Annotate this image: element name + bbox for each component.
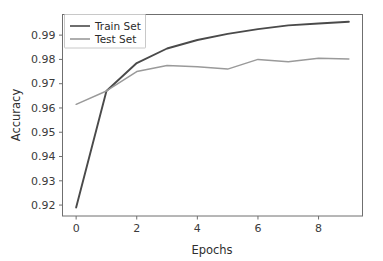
legend-label-train-set: Train Set — [94, 20, 141, 32]
y-tick-label-3: 0.95 — [31, 126, 56, 139]
figure-background — [0, 0, 383, 261]
y-tick-label-1: 0.93 — [31, 175, 56, 188]
y-tick-label-0: 0.92 — [31, 199, 56, 212]
x-tick-label-4: 8 — [315, 222, 322, 235]
chart-figure: 0.920.930.940.950.960.970.980.99 02468 E… — [0, 0, 383, 261]
x-tick-label-1: 2 — [133, 222, 140, 235]
y-axis-title: Accuracy — [9, 89, 23, 142]
y-tick-label-7: 0.99 — [31, 29, 56, 42]
y-tick-label-2: 0.94 — [31, 150, 56, 163]
chart-legend: Train Set Test Set — [65, 15, 146, 49]
y-tick-label-4: 0.96 — [31, 102, 56, 115]
x-tick-label-3: 6 — [254, 222, 261, 235]
x-tick-label-0: 0 — [73, 222, 80, 235]
accuracy-vs-epochs-line-chart: 0.920.930.940.950.960.970.980.99 02468 E… — [0, 0, 383, 261]
y-tick-label-5: 0.97 — [31, 77, 56, 90]
x-tick-label-2: 4 — [194, 222, 201, 235]
y-tick-label-6: 0.98 — [31, 53, 56, 66]
x-axis-title: Epochs — [191, 243, 232, 257]
legend-label-test-set: Test Set — [94, 33, 136, 45]
